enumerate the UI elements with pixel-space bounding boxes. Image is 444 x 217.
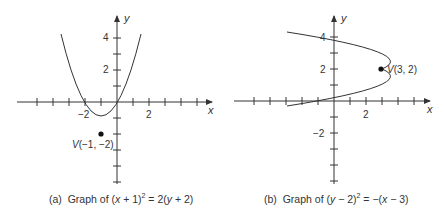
y-axis-label: y (123, 12, 131, 24)
y-tick-label-2: 2 (320, 64, 326, 75)
parabola-curve (287, 32, 390, 106)
caption-b: (b) Graph of (y − 2)2 = −(x − 3) (264, 192, 409, 205)
chart-b: 2 4 2 −2 x y V(3, 2) (234, 12, 433, 184)
caption-a-text: Graph of (68, 193, 109, 205)
x-tick-label-2: 2 (363, 109, 369, 120)
y-tick-label-neg2: −2 (313, 128, 325, 139)
y-axis-label: y (340, 12, 348, 24)
figure-canvas: −2 2 4 2 x y V(−1, −2) (0, 0, 444, 217)
x-tick-label-2: 2 (146, 109, 152, 120)
caption-a-lhs: + 1) (120, 193, 141, 205)
vertex-point (98, 131, 103, 136)
caption-b-prefix: (b) (264, 193, 277, 205)
vertex-label: V(−1, −2) (72, 139, 114, 150)
x-axis-label: x (207, 104, 214, 116)
caption-a-rhs: = 2( (145, 193, 166, 205)
caption-b-lhs: − 2) (335, 193, 356, 205)
caption-a: (a) Graph of (x + 1)2 = 2(y + 2) (49, 192, 193, 205)
chart-a: −2 2 4 2 x y V(−1, −2) (17, 12, 214, 184)
caption-a-prefix: (a) (49, 193, 62, 205)
caption-b-text: Graph of (283, 193, 324, 205)
caption-a-rhs-rest: + 2) (172, 193, 193, 205)
vertex-label: V(3, 2) (387, 64, 417, 75)
vertex-point (378, 66, 383, 71)
caption-b-rhs-rest: − 3) (387, 193, 408, 205)
y-tick-label-4: 4 (103, 32, 109, 43)
x-tick-label-neg2: −2 (78, 109, 90, 120)
y-tick-label-2: 2 (103, 64, 109, 75)
x-axis-label: x (426, 103, 433, 115)
caption-b-rhs: = −( (360, 193, 382, 205)
